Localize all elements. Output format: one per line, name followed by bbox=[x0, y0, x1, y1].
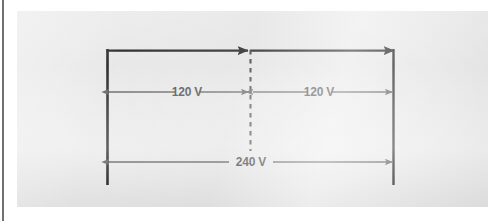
figure-root: 120 V 120 V 240 V bbox=[0, 0, 499, 221]
dimension-label-total-240v: 240 V bbox=[236, 156, 266, 168]
dimension-label-right-120v: 120 V bbox=[304, 86, 334, 98]
page-edge-rule bbox=[2, 0, 4, 221]
diagram-panel: 120 V 120 V 240 V bbox=[17, 11, 488, 207]
voltage-diagram-svg bbox=[17, 11, 488, 207]
dimension-label-left-120v: 120 V bbox=[172, 86, 202, 98]
